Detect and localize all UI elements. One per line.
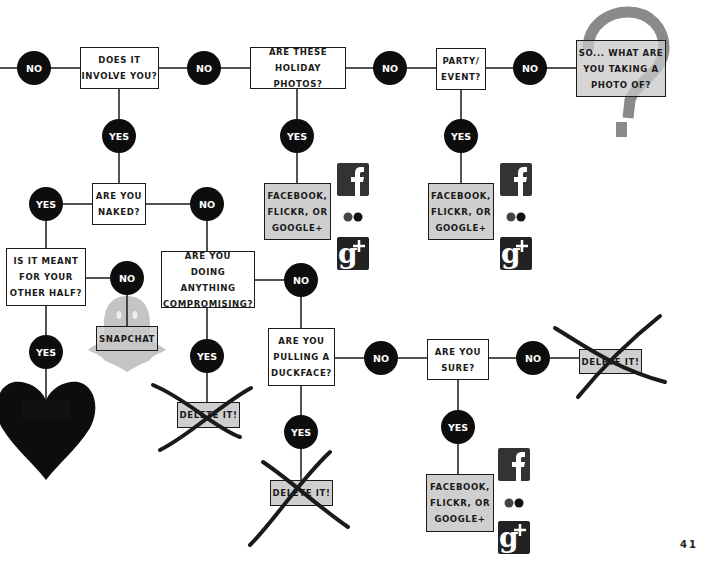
question-sure: ARE YOU SURE? (427, 339, 489, 380)
outcome-social-party: FACEBOOK, FLICKR, OR GOOGLE+ (428, 183, 494, 240)
outcome-social-sure: FACEBOOK, FLICKR, OR GOOGLE+ (426, 474, 494, 532)
question-duckface: ARE YOU PULLING A DUCKFACE? (268, 328, 335, 386)
outcome-delete-compromising: DELETE IT! (177, 402, 240, 428)
flickr-icon (498, 486, 530, 519)
outcome-delete-unsure: DELETE IT! (579, 349, 642, 374)
flickr-icon (337, 200, 369, 233)
node-no-party: NO (513, 51, 547, 85)
node-yes-naked: YES (29, 187, 63, 221)
svg-text:g: g (499, 521, 519, 554)
node-yes-party: YES (444, 119, 478, 153)
question-other-half: IS IT MEANT FOR YOUR OTHER HALF? (6, 248, 86, 306)
svg-text:g: g (501, 237, 521, 270)
facebook-icon (498, 448, 530, 481)
node-no-holiday: NO (373, 51, 407, 85)
node-yes-duckface: YES (284, 415, 318, 449)
question-involve-you: DOES IT INVOLVE YOU? (80, 47, 159, 89)
node-no-start: NO (17, 51, 51, 85)
node-no-sure: NO (516, 341, 550, 375)
outcome-social-holiday: FACEBOOK, FLICKR, OR GOOGLE+ (264, 183, 331, 240)
node-no-naked: NO (190, 187, 224, 221)
google-plus-icon: g (498, 521, 530, 554)
svg-text:g: g (338, 237, 358, 270)
node-yes-sure: YES (441, 410, 475, 444)
facebook-icon (337, 163, 369, 196)
question-compromising: ARE YOU DOING ANYTHING COMPROMISING? (161, 251, 255, 308)
google-plus-icon: g (337, 237, 369, 270)
question-party-event: PARTY/ EVENT? (436, 48, 486, 90)
node-no-duckface: NO (364, 341, 398, 375)
node-no-compromising: NO (284, 263, 318, 297)
question-naked: ARE YOU NAKED? (92, 183, 146, 225)
flowchart: DOES IT INVOLVE YOU? ARE THESE HOLIDAY P… (0, 0, 706, 570)
node-yes-compromising: YES (190, 339, 224, 373)
question-what-photo: SO... WHAT ARE YOU TAKING A PHOTO OF? (576, 40, 666, 97)
outcome-delete-duckface: DELETE IT! (270, 480, 333, 506)
google-plus-icon: g (500, 237, 532, 270)
heart-icon (0, 380, 100, 482)
node-yes-other-half: YES (29, 335, 63, 369)
node-no-other-half: NO (110, 261, 144, 295)
node-no-involve: NO (187, 51, 221, 85)
node-yes-involve: YES (102, 119, 136, 153)
outcome-snapchat: SNAPCHAT (96, 326, 158, 351)
question-holiday-photos: ARE THESE HOLIDAY PHOTOS? (250, 47, 346, 89)
flickr-icon (500, 200, 532, 233)
facebook-icon (500, 163, 532, 196)
node-yes-holiday: YES (280, 119, 314, 153)
